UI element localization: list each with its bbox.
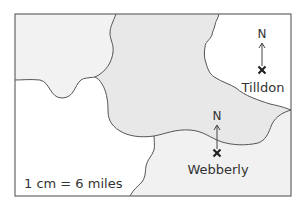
north-label: N	[258, 27, 267, 41]
map: N Tilldon N Webberly 1 cm = 6 miles	[0, 0, 304, 209]
north-label: N	[213, 109, 222, 123]
town-label: Tilldon	[241, 80, 285, 95]
town-label: Webberly	[187, 162, 249, 177]
scale-label: 1 cm = 6 miles	[24, 176, 123, 191]
